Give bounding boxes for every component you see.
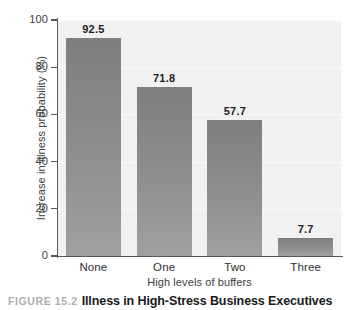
bar xyxy=(207,120,262,256)
y-axis-tick-label: 100 xyxy=(8,13,48,25)
bar-value-label: 92.5 xyxy=(63,23,123,35)
bar xyxy=(137,87,192,256)
y-axis-tick xyxy=(51,19,57,20)
x-axis-tick-label: One xyxy=(129,261,199,273)
bar-value-label: 71.8 xyxy=(134,72,194,84)
y-axis-tick xyxy=(51,255,57,256)
y-axis-tick xyxy=(51,161,57,162)
bar-value-label: 7.7 xyxy=(276,223,336,235)
x-axis-title: High levels of buffers xyxy=(58,276,341,288)
figure-caption: FIGURE 15.2Illness in High-Stress Busine… xyxy=(8,291,348,309)
bars-layer xyxy=(58,20,341,256)
y-axis-tick xyxy=(51,208,57,209)
x-axis-line xyxy=(51,256,343,257)
bar xyxy=(278,238,333,256)
y-axis-tick xyxy=(51,67,57,68)
bar xyxy=(66,38,121,256)
y-axis-tick-label: 0 xyxy=(8,249,48,261)
x-axis-tick-label: None xyxy=(58,261,128,273)
figure-container: 020406080100 Increase in illness probabi… xyxy=(0,0,352,310)
y-axis-tick xyxy=(51,114,57,115)
figure-title: Illness in High-Stress Business Executiv… xyxy=(82,294,333,308)
y-axis-title: Increase in illness probability (%) xyxy=(35,28,47,248)
x-axis-tick-label: Three xyxy=(271,261,341,273)
bar-chart: 020406080100 Increase in illness probabi… xyxy=(0,0,352,286)
bar-value-label: 57.7 xyxy=(205,105,265,117)
x-axis-tick-label: Two xyxy=(200,261,270,273)
figure-number: FIGURE 15.2 xyxy=(8,295,78,307)
